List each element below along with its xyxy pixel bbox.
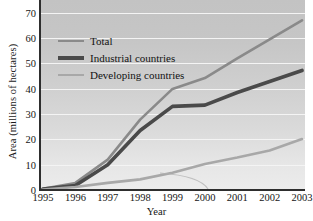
y-tick-label: 20 — [12, 134, 36, 145]
legend-item-industrial-countries[interactable]: Industrial countries — [58, 52, 184, 64]
legend-item-developing-countries[interactable]: Developing countries — [58, 69, 184, 81]
y-tick-label: 30 — [12, 109, 36, 120]
y-tick-label: 40 — [12, 83, 36, 94]
legend-label-developing-countries: Developing countries — [90, 69, 184, 81]
x-axis-title: Year — [0, 206, 313, 217]
x-axis-line — [39, 189, 305, 191]
legend-item-total[interactable]: Total — [58, 35, 184, 47]
legend: Total Industrial countries Developing co… — [58, 35, 184, 81]
y-axis-line — [39, 0, 41, 191]
y-tick-label: 10 — [12, 159, 36, 170]
legend-swatch-developing-icon — [58, 74, 84, 77]
legend-swatch-total-icon — [58, 40, 84, 43]
y-tick-label: 60 — [12, 33, 36, 44]
y-tick-label: 50 — [12, 58, 36, 69]
legend-label-total: Total — [90, 35, 112, 47]
y-tick-label: 70 — [12, 7, 36, 18]
scan-artifact-curve — [40, 0, 305, 190]
x-tick-label: 2003 — [280, 192, 313, 203]
legend-swatch-industrial-icon — [58, 56, 84, 60]
line-chart: Area (millions of hectares) 010203040506… — [0, 0, 313, 221]
legend-label-industrial-countries: Industrial countries — [90, 52, 175, 64]
plot-area — [40, 0, 305, 190]
